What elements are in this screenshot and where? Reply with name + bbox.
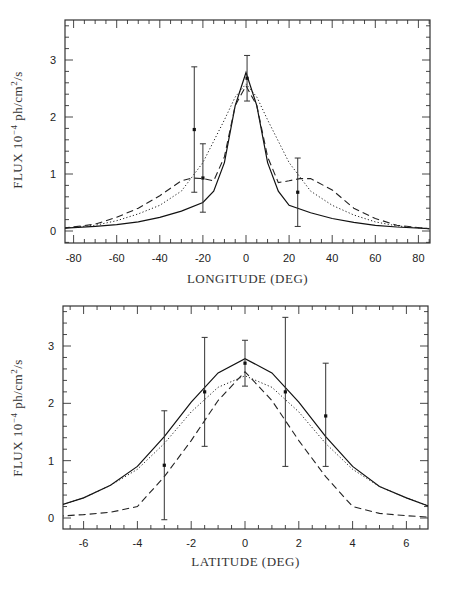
y-tick-label: 2 — [48, 397, 54, 409]
model-solid-curve — [63, 73, 429, 229]
model-dotted-curve — [57, 376, 434, 508]
x-tick-label: 4 — [350, 537, 356, 549]
x-tick-label: -20 — [195, 252, 211, 264]
data-point-with-error-bar — [323, 363, 329, 466]
data-point-with-error-bar — [191, 67, 197, 192]
y-tick-label: 0 — [50, 225, 56, 237]
latitude-flux-panel: -6-4-202460123LATITUDE (DEG)FLUX 10−4 ph… — [9, 306, 433, 569]
x-tick-label: 60 — [369, 252, 381, 264]
x-tick-label: -80 — [66, 252, 82, 264]
x-tick-label: -2 — [186, 537, 196, 549]
x-tick-label: 0 — [242, 537, 248, 549]
x-axis-title: LATITUDE (DEG) — [191, 554, 299, 569]
x-tick-label: 40 — [326, 252, 338, 264]
x-tick-label: -6 — [79, 537, 89, 549]
data-point-with-error-bar — [244, 55, 250, 101]
y-tick-label: 3 — [48, 340, 54, 352]
x-tick-label: -60 — [109, 252, 125, 264]
model-dashed-curve — [57, 372, 434, 518]
y-tick-label: 1 — [50, 168, 56, 180]
plot-frame — [63, 306, 428, 529]
model-dashed-curve — [63, 86, 429, 229]
x-axis-title: LONGITUDE (DEG) — [187, 271, 308, 286]
x-tick-label: 2 — [296, 537, 302, 549]
x-tick-label: 80 — [412, 252, 424, 264]
y-tick-label: 2 — [50, 111, 56, 123]
y-axis-title: FLUX 10−4 ph/cm2/s — [9, 71, 25, 189]
data-point-with-error-bar — [242, 340, 248, 386]
y-tick-label: 3 — [50, 54, 56, 66]
y-tick-label: 0 — [48, 512, 54, 524]
data-point-with-error-bar — [295, 158, 301, 226]
longitude-flux-panel: -80-60-40-200204060800123LONGITUDE (DEG)… — [9, 20, 430, 286]
y-tick-label: 1 — [48, 455, 54, 467]
model-dotted-curve — [63, 84, 429, 229]
x-tick-label: 20 — [283, 252, 295, 264]
data-point-with-error-bar — [282, 317, 288, 466]
x-tick-label: -4 — [133, 537, 143, 549]
x-tick-label: -40 — [152, 252, 168, 264]
data-point-with-error-bar — [161, 411, 167, 520]
y-axis-title: FLUX 10−4 ph/cm2/s — [9, 359, 25, 477]
x-tick-label: 6 — [403, 537, 409, 549]
plot-frame — [65, 20, 430, 243]
x-tick-label: 0 — [243, 252, 249, 264]
data-point-with-error-bar — [202, 337, 208, 446]
chart-canvas: -80-60-40-200204060800123LONGITUDE (DEG)… — [0, 0, 450, 592]
